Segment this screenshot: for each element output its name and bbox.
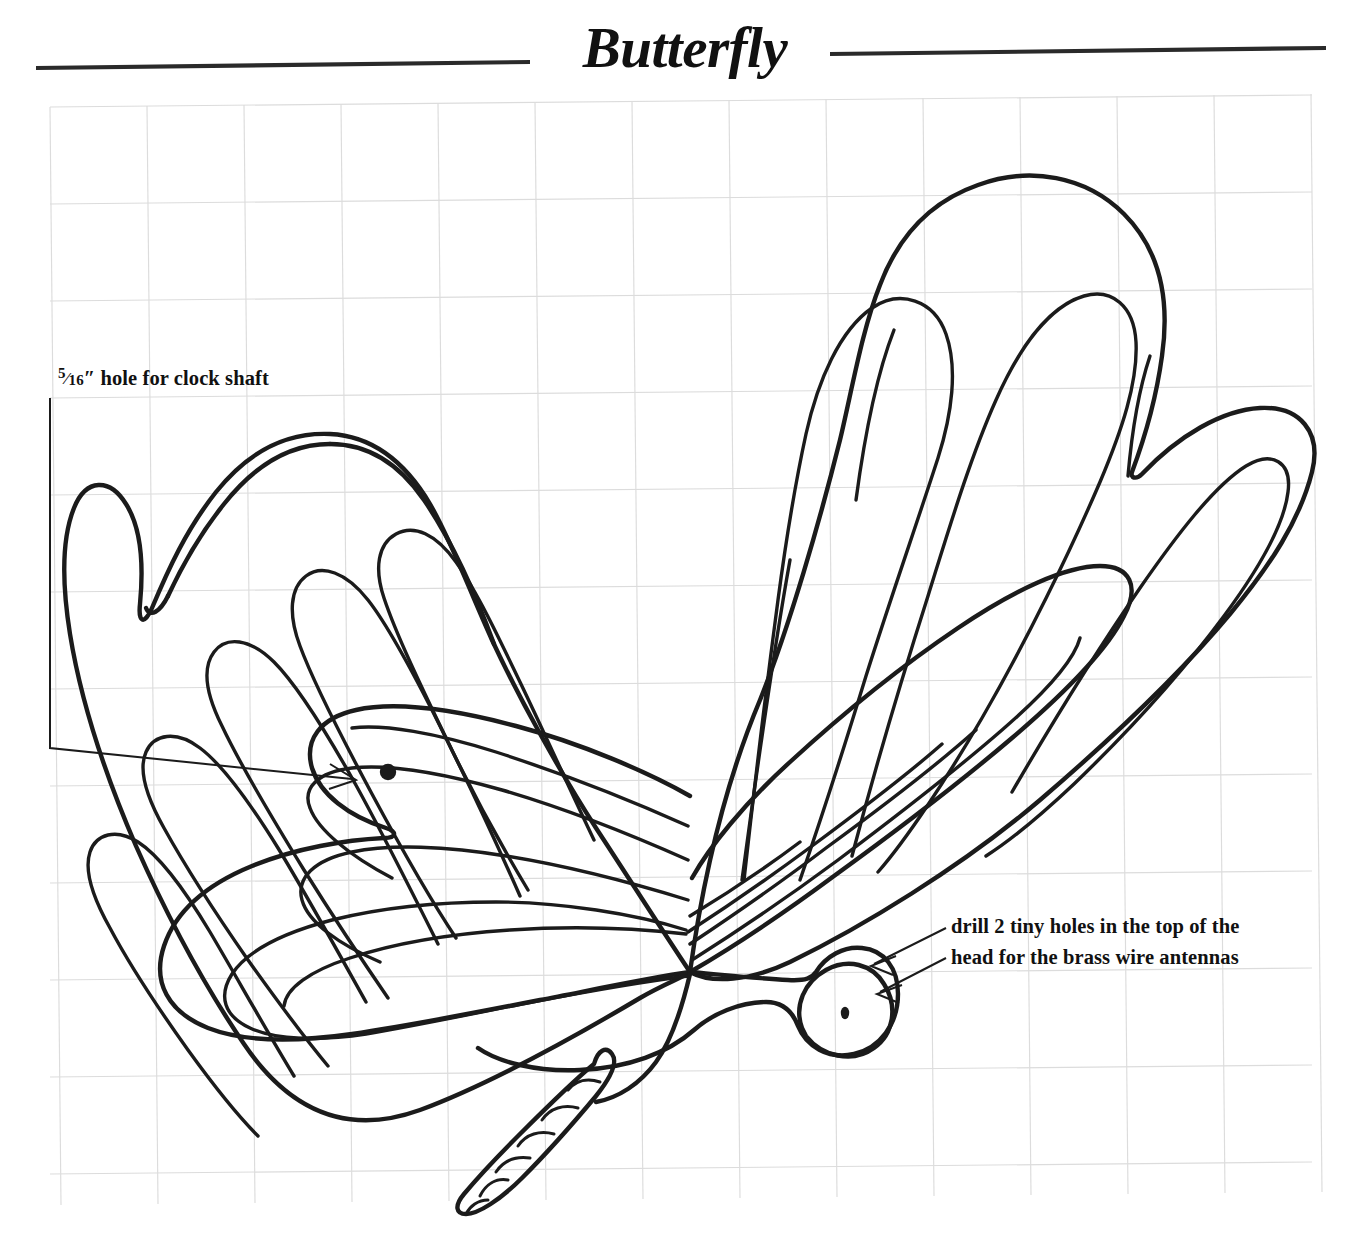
clock-shaft-leader-line — [50, 398, 352, 779]
butterfly-drawing — [0, 0, 1361, 1234]
antenna-callout-leaders — [871, 928, 946, 1003]
clock-shaft-hole — [380, 764, 396, 780]
clock-shaft-annotation-text: ″ hole for clock shaft — [84, 367, 269, 389]
fraction-five-sixteenths: 5⁄16 — [58, 358, 84, 396]
upper-right-wing — [690, 176, 1314, 980]
antenna-hole — [841, 1007, 849, 1019]
antenna-annotation-line-1: drill 2 tiny holes in the top of the — [951, 911, 1239, 942]
fraction-numerator: 5 — [58, 365, 66, 381]
antenna-leader-line-1 — [874, 928, 946, 964]
fraction-denominator: 16 — [69, 372, 84, 388]
abdomen — [457, 1050, 614, 1214]
antenna-annotation: drill 2 tiny holes in the top of the hea… — [951, 911, 1239, 973]
clock-shaft-annotation: 5⁄16″ hole for clock shaft — [58, 359, 269, 397]
lower-left-wing — [160, 706, 690, 1039]
antenna-annotation-line-2: head for the brass wire antennas — [951, 942, 1239, 973]
pattern-page: Butterfly — [0, 0, 1361, 1234]
